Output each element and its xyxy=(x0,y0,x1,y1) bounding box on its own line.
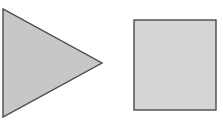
shape-canvas-root xyxy=(0,0,223,124)
shape-canvas xyxy=(0,0,223,124)
square-shape[interactable] xyxy=(134,20,216,110)
